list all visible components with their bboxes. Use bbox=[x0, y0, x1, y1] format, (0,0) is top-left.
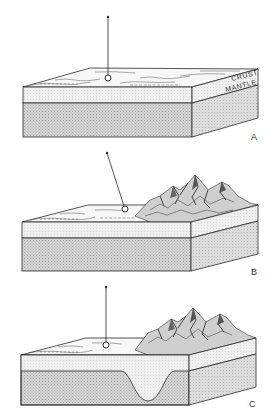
panel-label-c: C bbox=[249, 399, 256, 409]
panel-label-a: A bbox=[251, 132, 257, 142]
block-diagram-c: C bbox=[21, 286, 256, 409]
isostasy-figure: CRUST MANTLE A bbox=[0, 0, 269, 415]
block-diagram-a: CRUST MANTLE A bbox=[23, 16, 259, 142]
plumb-pin-b bbox=[106, 152, 128, 212]
block-diagram-b: B bbox=[22, 152, 258, 277]
panel-label-b: B bbox=[251, 267, 257, 277]
